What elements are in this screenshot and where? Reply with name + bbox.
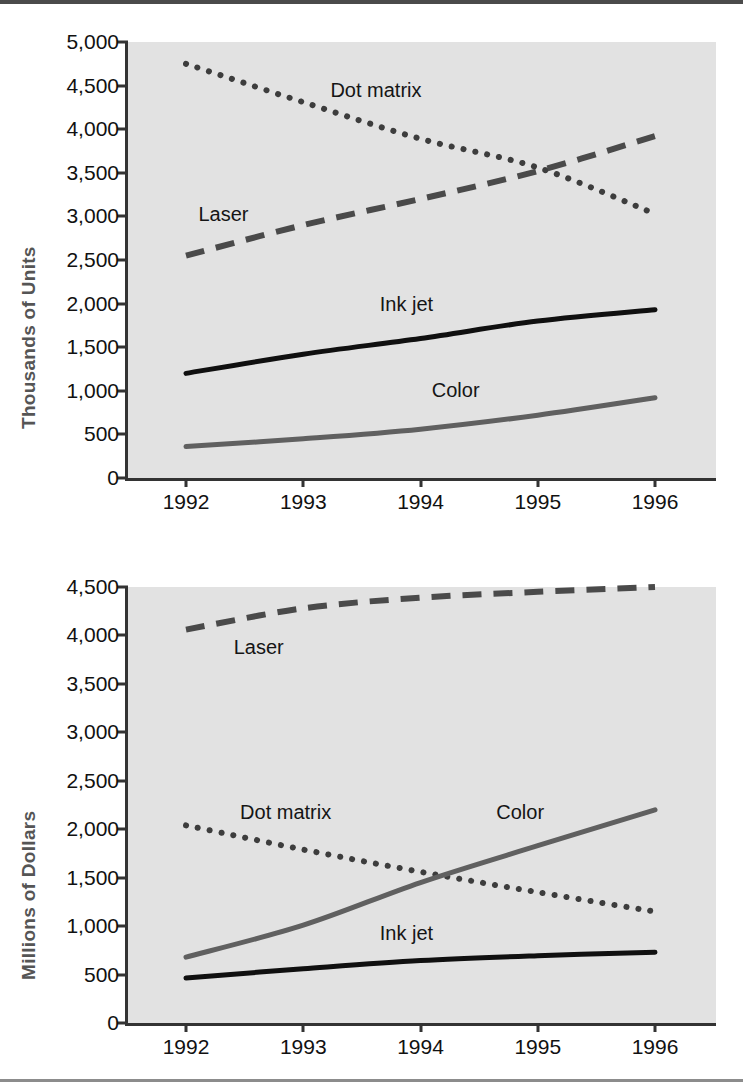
y-tick-label: 4,000 xyxy=(66,117,119,141)
series-label-laser: Laser xyxy=(234,636,284,659)
x-tick-mark xyxy=(185,1023,188,1032)
y-tick-label: 2,000 xyxy=(66,292,119,316)
x-tick-mark xyxy=(536,1023,539,1032)
y-tick-label: 2,500 xyxy=(66,248,119,272)
y-tick-label: 4,500 xyxy=(66,575,119,599)
bottom-rule xyxy=(0,1079,743,1082)
series-label-ink-jet: Ink jet xyxy=(380,921,433,944)
series-line-laser xyxy=(186,136,655,255)
y-tick-label: 1,500 xyxy=(66,866,119,890)
dollars-plot-area: 05001,0001,5002,0002,5003,0003,5004,0004… xyxy=(125,587,716,1026)
figure-page: Thousands of Units 05001,0001,5002,0002,… xyxy=(0,0,743,1092)
y-tick-label: 3,000 xyxy=(66,720,119,744)
x-tick-mark xyxy=(654,478,657,487)
y-tick-label: 3,500 xyxy=(66,672,119,696)
y-tick-label: 3,000 xyxy=(66,204,119,228)
y-tick-label: 500 xyxy=(84,963,119,987)
series-line-color xyxy=(186,398,655,447)
x-tick-mark xyxy=(185,478,188,487)
y-tick-label: 5,000 xyxy=(66,30,119,54)
y-tick-label: 500 xyxy=(84,422,119,446)
x-tick-label: 1993 xyxy=(280,490,327,514)
series-label-dot-matrix: Dot matrix xyxy=(330,78,421,101)
units-plot-area: 05001,0001,5002,0002,5003,0003,5004,0004… xyxy=(125,42,716,481)
x-tick-label: 1992 xyxy=(163,1035,210,1059)
x-tick-label: 1992 xyxy=(163,490,210,514)
series-line-laser xyxy=(186,587,655,630)
y-tick-label: 2,000 xyxy=(66,817,119,841)
series-label-color: Color xyxy=(432,378,480,401)
x-tick-label: 1994 xyxy=(397,1035,444,1059)
x-tick-mark xyxy=(419,1023,422,1032)
y-tick-label: 4,000 xyxy=(66,623,119,647)
y-tick-label: 1,000 xyxy=(66,914,119,938)
series-label-dot-matrix: Dot matrix xyxy=(240,800,331,823)
dollars-y-axis-title: Millions of Dollars xyxy=(18,811,40,980)
x-tick-label: 1993 xyxy=(280,1035,327,1059)
units-y-axis-title: Thousands of Units xyxy=(18,246,40,429)
chart-millions-of-dollars: Millions of Dollars 05001,0001,5002,0002… xyxy=(0,560,743,1075)
y-tick-label: 1,500 xyxy=(66,335,119,359)
series-layer xyxy=(128,42,716,478)
chart-thousands-of-units: Thousands of Units 05001,0001,5002,0002,… xyxy=(0,14,743,534)
series-line-dot-matrix xyxy=(186,825,655,911)
x-tick-mark xyxy=(654,1023,657,1032)
series-line-ink-jet xyxy=(186,310,655,374)
x-tick-mark xyxy=(302,1023,305,1032)
y-tick-label: 0 xyxy=(107,466,119,490)
series-label-color: Color xyxy=(496,800,544,823)
x-tick-label: 1994 xyxy=(397,490,444,514)
y-tick-label: 3,500 xyxy=(66,161,119,185)
x-tick-label: 1996 xyxy=(632,490,679,514)
y-tick-label: 1,000 xyxy=(66,379,119,403)
y-tick-label: 0 xyxy=(107,1011,119,1035)
x-tick-mark xyxy=(536,478,539,487)
y-tick-label: 4,500 xyxy=(66,74,119,98)
top-rule xyxy=(0,0,743,4)
series-label-laser: Laser xyxy=(199,202,249,225)
x-tick-label: 1996 xyxy=(632,1035,679,1059)
x-tick-mark xyxy=(419,478,422,487)
series-line-ink-jet xyxy=(186,952,655,978)
y-tick-label: 2,500 xyxy=(66,769,119,793)
x-tick-label: 1995 xyxy=(514,490,561,514)
x-tick-label: 1995 xyxy=(514,1035,561,1059)
x-tick-mark xyxy=(302,478,305,487)
series-label-ink-jet: Ink jet xyxy=(380,293,433,316)
series-layer xyxy=(128,587,716,1023)
